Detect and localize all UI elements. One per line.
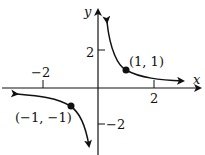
x-tick-label-neg2: −2 xyxy=(31,65,50,80)
point-label-neg1-neg1: (−1, −1) xyxy=(15,110,72,125)
y-tick-label-2: 2 xyxy=(86,45,94,60)
x-tick-label-2: 2 xyxy=(150,91,158,106)
graph: y x −2 2 2 −2 (1, 1) (−1, −1) xyxy=(0,0,205,155)
point-neg1-neg1 xyxy=(68,103,75,110)
y-axis-label: y xyxy=(83,4,92,19)
y-tick-label-neg2: −2 xyxy=(106,117,125,132)
curve-positive-branch xyxy=(107,22,183,81)
point-label-1-1: (1, 1) xyxy=(129,54,164,69)
x-axis-label: x xyxy=(193,72,201,87)
